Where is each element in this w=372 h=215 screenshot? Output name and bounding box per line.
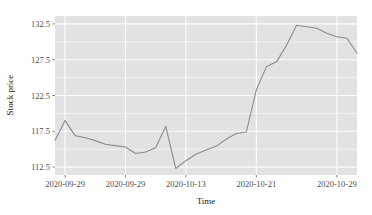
y-tick-label-2: 122.5 — [31, 91, 50, 101]
x-tick-label-2: 2020-10-13 — [166, 179, 206, 189]
x-tick-label-1: 2020-09-29 — [106, 179, 146, 189]
y-tick-label-3: 127.5 — [31, 55, 50, 65]
y-axis-title: Stock price — [5, 75, 15, 116]
y-tick-label-0: 112.5 — [31, 162, 50, 172]
x-tick-label-4: 2020-10-29 — [317, 179, 357, 189]
stock-price-line-chart: 112.5117.5122.5127.5132.5 2020-09-292020… — [0, 0, 372, 215]
y-tick-label-1: 117.5 — [31, 126, 50, 136]
x-axis-title: Time — [197, 196, 216, 206]
x-tick-label-0: 2020-09-29 — [45, 179, 85, 189]
y-tick-label-4: 132.5 — [31, 19, 50, 29]
chart-canvas: 112.5117.5122.5127.5132.5 2020-09-292020… — [0, 0, 372, 215]
x-tick-label-3: 2020-10-21 — [236, 179, 276, 189]
